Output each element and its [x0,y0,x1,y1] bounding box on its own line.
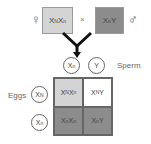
sperm-gamete-xn: Xn [63,57,80,74]
allele: Y [111,16,116,25]
sperm-label: Sperm [117,61,141,70]
punnett-cell-xN-xn: XNXn [54,78,83,107]
cross-times-sign: × [80,15,85,24]
egg-gamete-xN: XN [31,86,48,103]
punnett-cell-xn-y: XnY [83,107,112,136]
female-symbol-icon: ♀ [31,13,41,26]
punnett-cell-xN-y: XNY [83,78,112,107]
allele: X [91,89,96,96]
allele: Y [99,117,104,124]
allele: X [69,89,74,96]
punnett-square: XNXn XNY XnXn XnY [53,77,113,136]
sperm-gamete-y: Y [88,57,105,74]
egg-gamete-xn: Xn [31,114,48,131]
eggs-label: Eggs [8,91,26,100]
allele: Y [94,62,99,69]
cross-arrow-icon [60,30,100,60]
male-symbol-icon: ♂ [128,13,138,26]
punnett-cell-xn-xn: XnXn [54,107,83,136]
allele: Y [99,89,104,96]
